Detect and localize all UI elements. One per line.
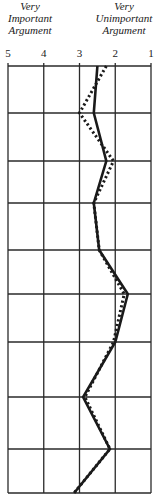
x-tick-label: 5 [5,47,11,59]
chart-series [74,66,128,493]
x-tick-label: 4 [41,47,47,59]
x-axis-tick-labels: 54321 [5,47,154,59]
x-tick-label: 1 [148,47,154,59]
x-tick-label: 3 [77,47,83,59]
profile-chart: 54321 [0,0,160,498]
x-tick-label: 2 [113,47,119,59]
chart-grid [8,63,151,493]
